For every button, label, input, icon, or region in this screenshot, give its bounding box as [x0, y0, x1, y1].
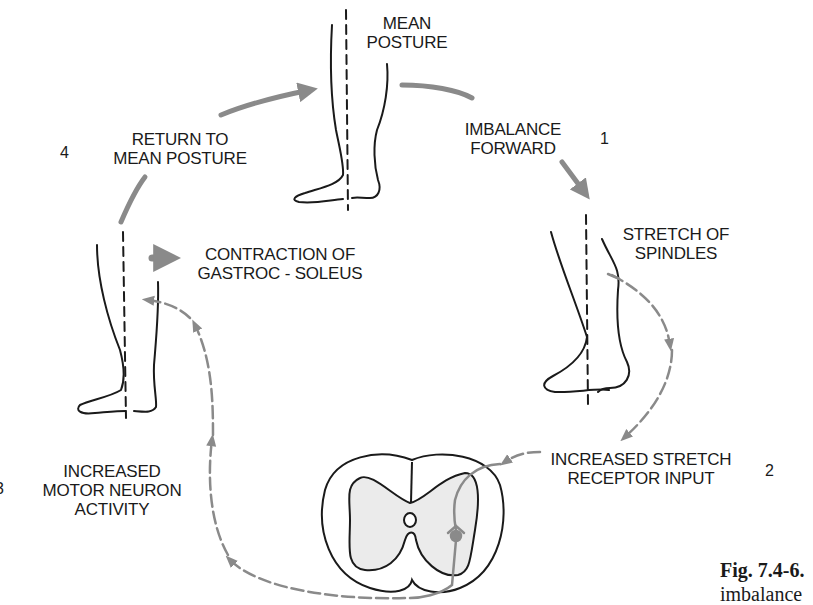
step-number-3: 3	[0, 480, 4, 498]
label-line: SPINDLES	[606, 244, 746, 263]
label-line: INCREASED STRETCH	[536, 450, 746, 469]
caption-text: imbalance	[720, 582, 804, 605]
spinal-cord-section	[322, 454, 504, 592]
label-return-to-mean-posture: RETURN TO MEAN POSTURE	[90, 130, 270, 168]
figure-caption: Fig. 7.4-6. imbalance	[720, 558, 804, 605]
leg-contraction	[78, 232, 158, 418]
label-line: ACTIVITY	[22, 500, 202, 519]
label-stretch-of-spindles: STRETCH OF SPINDLES	[606, 225, 746, 263]
step-number-4: 4	[60, 144, 69, 162]
label-imbalance-forward: IMBALANCE FORWARD	[448, 120, 578, 158]
label-line: RECEPTOR INPUT	[536, 469, 746, 488]
label-line: FORWARD	[448, 139, 578, 158]
label-increased-stretch-receptor-input: INCREASED STRETCH RECEPTOR INPUT	[536, 450, 746, 488]
label-line: GASTROC - SOLEUS	[175, 264, 385, 283]
sway-arrows	[121, 85, 585, 258]
label-line: RETURN TO	[90, 130, 270, 149]
label-line: MEAN	[362, 14, 452, 33]
label-line: CONTRACTION OF	[175, 245, 385, 264]
label-contraction-gastroc-soleus: CONTRACTION OF GASTROC - SOLEUS	[175, 245, 385, 283]
label-line: STRETCH OF	[606, 225, 746, 244]
label-mean-posture: MEAN POSTURE	[362, 14, 452, 52]
figure-number: Fig. 7.4-6.	[720, 559, 804, 581]
label-line: POSTURE	[362, 33, 452, 52]
label-line: INCREASED	[22, 462, 202, 481]
label-line: IMBALANCE	[448, 120, 578, 139]
step-number-1: 1	[600, 130, 609, 148]
label-increased-motor-neuron-activity: INCREASED MOTOR NEURON ACTIVITY	[22, 462, 202, 519]
label-line: MOTOR NEURON	[22, 481, 202, 500]
label-line: MEAN POSTURE	[90, 149, 270, 168]
step-number-2: 2	[765, 462, 774, 480]
